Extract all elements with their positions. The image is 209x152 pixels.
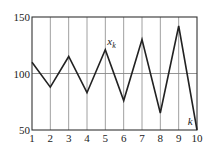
x-tick-label: 5 — [103, 132, 109, 144]
x-tick-label: 6 — [121, 132, 127, 144]
x-tick-label: 7 — [139, 132, 145, 144]
x-tick-label: 8 — [158, 132, 164, 144]
x-tick-label: 4 — [84, 132, 90, 144]
series-annotation-xk: xk — [106, 35, 116, 50]
series-label-subscript: k — [112, 41, 116, 50]
x-axis-label-k: k — [188, 115, 194, 127]
y-tick-label: 100 — [14, 68, 31, 80]
x-tick-label: 2 — [48, 132, 54, 144]
x-tick-label: 10 — [192, 132, 204, 144]
x-axis-tick-labels: 12345678910 — [29, 132, 203, 144]
y-axis-tick-labels: 50100150 — [14, 11, 31, 136]
x-tick-label: 9 — [176, 132, 182, 144]
y-tick-label: 150 — [14, 11, 31, 23]
x-tick-label: 3 — [66, 132, 72, 144]
x-tick-label: 1 — [29, 132, 35, 144]
line-chart: 50100150 12345678910 xk k — [0, 0, 209, 152]
